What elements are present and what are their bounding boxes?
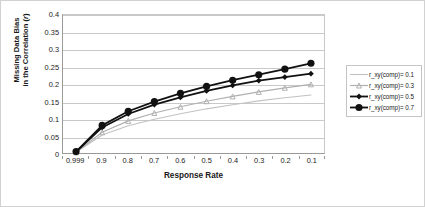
legend-marker-icon bbox=[349, 91, 369, 102]
data-point bbox=[229, 77, 236, 84]
x-axis-title: Response Rate bbox=[62, 171, 325, 180]
x-axis-tick-mark bbox=[299, 156, 300, 159]
y-axis-tick-label: 0.05 bbox=[26, 132, 59, 141]
data-point bbox=[281, 66, 288, 73]
legend-item: r_xy(comp)= 0.5 bbox=[349, 91, 419, 102]
data-point bbox=[308, 71, 314, 77]
x-axis-tick-mark bbox=[246, 156, 247, 159]
y-axis-tick-label: 0.2 bbox=[26, 80, 59, 89]
data-point bbox=[307, 60, 314, 67]
y-axis-tick-label: 0.15 bbox=[26, 97, 59, 106]
data-point bbox=[72, 148, 79, 155]
x-axis-tick-label: 0.5 bbox=[202, 156, 212, 165]
chart-figure: Missing Data Bias in the Correlation (r)… bbox=[0, 0, 425, 207]
legend-marker-icon bbox=[349, 102, 369, 113]
legend-label: r_xy(comp)= 0.1 bbox=[369, 71, 414, 78]
series-4 bbox=[72, 60, 314, 155]
plot-area bbox=[62, 14, 325, 154]
x-axis-tick-mark bbox=[194, 156, 195, 159]
x-axis-tick-mark bbox=[324, 156, 325, 159]
legend-marker-icon bbox=[349, 80, 369, 91]
x-axis-tick-mark bbox=[220, 156, 221, 159]
data-point bbox=[282, 74, 288, 80]
data-point bbox=[125, 108, 132, 115]
y-axis-tick-label: 0.1 bbox=[26, 115, 59, 124]
x-axis-tick-mark bbox=[62, 156, 63, 159]
legend-item: r_xy(comp)= 0.7 bbox=[349, 102, 419, 113]
x-axis-tick-label: 0.2 bbox=[280, 156, 290, 165]
legend-item: r_xy(comp)= 0.3 bbox=[349, 80, 419, 91]
series-line bbox=[76, 74, 311, 152]
legend-label: r_xy(comp)= 0.3 bbox=[369, 82, 414, 89]
chart-legend: r_xy(comp)= 0.1r_xy(comp)= 0.3r_xy(comp)… bbox=[346, 65, 422, 117]
x-axis-tick-mark bbox=[141, 156, 142, 159]
x-axis-tick-label: 0.8 bbox=[123, 156, 133, 165]
data-point bbox=[99, 122, 106, 129]
y-axis-title-line1: Missing Data Bias bbox=[12, 14, 21, 87]
y-axis-tick-labels: 00.050.10.150.20.250.30.350.4 bbox=[26, 14, 59, 154]
y-axis-tick-label: 0.25 bbox=[26, 62, 59, 71]
series-layer bbox=[63, 15, 324, 153]
legend-label: r_xy(comp)= 0.5 bbox=[369, 93, 414, 100]
y-axis-tick-label: 0.3 bbox=[26, 45, 59, 54]
data-point bbox=[151, 98, 158, 105]
x-axis-tick-label: 0.7 bbox=[149, 156, 159, 165]
legend-marker-icon bbox=[349, 69, 369, 80]
data-point bbox=[203, 83, 210, 90]
x-axis-tick-labels: 0.9990.90.80.70.60.50.40.30.20.1 bbox=[62, 156, 325, 168]
x-axis-tick-label: 0.9 bbox=[96, 156, 106, 165]
x-axis-tick-mark bbox=[272, 156, 273, 159]
data-point bbox=[177, 90, 184, 97]
y-axis-tick-label: 0.35 bbox=[26, 27, 59, 36]
series-3 bbox=[73, 71, 314, 155]
x-axis-tick-mark bbox=[88, 156, 89, 159]
legend-label: r_xy(comp)= 0.7 bbox=[369, 104, 414, 111]
y-axis-tick-label: 0 bbox=[26, 150, 59, 159]
x-axis-tick-label: 0.999 bbox=[66, 156, 85, 165]
data-point bbox=[256, 78, 262, 84]
data-point bbox=[255, 71, 262, 78]
series-2 bbox=[74, 82, 314, 155]
x-axis-tick-label: 0.4 bbox=[228, 156, 238, 165]
series-line bbox=[76, 63, 311, 151]
legend-item: r_xy(comp)= 0.1 bbox=[349, 69, 419, 80]
x-axis-tick-label: 0.1 bbox=[307, 156, 317, 165]
x-axis-tick-mark bbox=[167, 156, 168, 159]
x-axis-tick-label: 0.6 bbox=[175, 156, 185, 165]
x-axis-tick-label: 0.3 bbox=[254, 156, 264, 165]
x-axis-tick-mark bbox=[115, 156, 116, 159]
y-axis-tick-label: 0.4 bbox=[26, 10, 59, 19]
